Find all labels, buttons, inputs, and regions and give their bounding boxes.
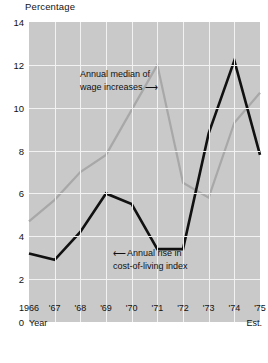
gridline-horizontal <box>29 151 260 152</box>
arrow-right-icon: ⟶ <box>145 82 157 92</box>
x-axis-tick-label: '75 <box>254 303 266 313</box>
annotation-cost-of-living: ⟵ Annual rise in cost-of-living index <box>113 247 188 272</box>
y-axis-tick-label: 6 <box>19 188 24 199</box>
x-axis-tick-label: '69 <box>100 303 112 313</box>
annotation-wage-increases: Annual median of wage increases ⟶ <box>80 68 157 93</box>
y-axis-tick-label: 0 <box>19 317 24 328</box>
gridline-horizontal <box>29 236 260 237</box>
gridline-horizontal <box>29 108 260 109</box>
gridline-vertical <box>157 22 158 322</box>
y-axis-tick-label: 8 <box>19 145 24 156</box>
gridline-vertical <box>209 22 210 322</box>
annotation-col-line2: cost-of-living index <box>113 260 188 273</box>
y-axis-tick-label: 10 <box>13 102 24 113</box>
annotation-col-line1: Annual rise in <box>127 248 182 258</box>
gridline-horizontal <box>29 279 260 280</box>
x-axis-tick-label: 1966 <box>19 303 39 313</box>
x-axis-caption-right: Est. <box>246 318 262 328</box>
annotation-wage-line1: Annual median of <box>80 68 157 81</box>
gridline-vertical <box>80 22 81 322</box>
annotation-wage-line2: wage increases <box>80 82 143 92</box>
plot-area: 02468101214 <box>29 22 260 322</box>
y-axis-tick-label: 12 <box>13 59 24 70</box>
gridline-horizontal <box>29 193 260 194</box>
x-axis-tick-label: '68 <box>74 303 86 313</box>
x-axis-tick-label: '71 <box>151 303 163 313</box>
gridline-vertical <box>183 22 184 322</box>
annotation-wage-line2-row: wage increases ⟶ <box>80 81 157 94</box>
gridline-horizontal <box>29 65 260 66</box>
gridline-vertical <box>55 22 56 322</box>
x-axis-tick-label: '73 <box>203 303 215 313</box>
gridline-vertical <box>132 22 133 322</box>
gridline-vertical <box>234 22 235 322</box>
x-axis-tick-label: '67 <box>49 303 61 313</box>
y-axis-tick-label: 2 <box>19 274 24 285</box>
x-axis-tick-label: '74 <box>228 303 240 313</box>
x-axis-tick-label: '72 <box>177 303 189 313</box>
plot-lines-svg <box>29 22 260 322</box>
y-axis-tick-label: 14 <box>13 17 24 28</box>
x-axis-caption-left: Year <box>29 318 47 328</box>
y-axis-tick-label: 4 <box>19 231 24 242</box>
chart-axis-title: Percentage <box>25 1 75 12</box>
arrow-left-icon: ⟵ <box>113 248 125 258</box>
gridline-vertical <box>106 22 107 322</box>
percentage-line-chart: Percentage 02468101214 Year Est. Annual … <box>0 0 268 363</box>
annotation-col-line1-row: ⟵ Annual rise in <box>113 247 188 260</box>
x-axis-tick-label: '70 <box>126 303 138 313</box>
